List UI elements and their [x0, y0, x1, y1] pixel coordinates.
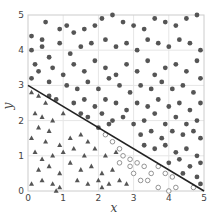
y-tick-label: 4	[18, 45, 24, 55]
y-tick-labels: 012345	[18, 10, 24, 196]
filled-circle-point	[145, 37, 150, 42]
open-circle-point	[170, 175, 175, 180]
triangle-point	[124, 181, 129, 186]
filled-circle-point	[198, 160, 203, 165]
filled-circle-point	[149, 87, 154, 92]
triangle-point	[68, 135, 73, 140]
filled-circle-point	[43, 20, 48, 25]
y-tick-label: 0	[18, 186, 24, 196]
open-circle-point	[138, 178, 143, 183]
filled-circle-point	[173, 115, 178, 120]
triangle-point	[29, 90, 34, 95]
x-axis-label: x	[111, 201, 118, 215]
triangle-point	[33, 111, 38, 116]
filled-circle-point	[82, 69, 87, 74]
filled-circle-point	[145, 104, 150, 109]
triangle-point	[43, 139, 48, 144]
open-circle-point	[156, 185, 161, 190]
filled-circle-point	[85, 115, 90, 120]
filled-circle-point	[163, 65, 168, 70]
triangle-point	[36, 125, 41, 130]
filled-circle-point	[159, 136, 164, 141]
filled-circle-point	[152, 16, 157, 21]
filled-circle-point	[195, 118, 200, 123]
y-tick-label: 5	[18, 10, 24, 20]
filled-circle-point	[29, 48, 34, 53]
filled-circle-point	[40, 44, 45, 49]
triangle-point	[33, 149, 38, 154]
scatter-chart: 012345 012345 x y	[0, 0, 212, 221]
filled-circle-point	[89, 41, 94, 46]
filled-circle-point	[82, 97, 87, 102]
filled-circle-point	[135, 69, 140, 74]
filled-circle-point	[152, 146, 157, 151]
filled-circle-point	[184, 146, 189, 151]
filled-circle-point	[163, 143, 168, 148]
filled-circle-point	[198, 136, 203, 141]
filled-circle-point	[114, 44, 119, 49]
filled-circle-point	[121, 20, 126, 25]
filled-circle-point	[184, 122, 189, 127]
filled-circle-point	[177, 37, 182, 42]
triangle-point	[117, 178, 122, 183]
x-tick-label: 0	[25, 193, 31, 203]
filled-circle-point	[121, 115, 126, 120]
x-tick-label: 5	[201, 193, 207, 203]
triangle-point	[57, 142, 62, 147]
filled-circle-point	[103, 65, 108, 70]
x-tick-label: 2	[96, 193, 102, 203]
filled-circle-point	[191, 129, 196, 134]
triangle-point	[78, 167, 83, 172]
open-circle-point	[110, 139, 115, 144]
filled-circle-point	[61, 72, 66, 77]
open-circle-point	[174, 185, 179, 190]
triangle-point	[99, 185, 104, 190]
filled-circle-point	[36, 69, 41, 74]
filled-circle-point	[75, 87, 80, 92]
open-circle-point	[135, 161, 140, 166]
filled-circle-point	[166, 104, 171, 109]
filled-circle-point	[117, 83, 122, 88]
filled-circle-point	[163, 122, 168, 127]
filled-circle-point	[103, 37, 108, 42]
filled-circle-point	[177, 101, 182, 106]
filled-circle-point	[195, 175, 200, 180]
filled-circle-point	[71, 62, 76, 67]
filled-circle-point	[131, 23, 136, 28]
filled-circle-point	[173, 150, 178, 155]
filled-circle-point	[156, 41, 161, 46]
triangle-point	[36, 167, 41, 172]
open-circle-point	[149, 171, 154, 176]
triangle-point	[106, 181, 111, 186]
filled-circle-point	[110, 13, 115, 18]
filled-circle-point	[170, 129, 175, 134]
open-circle-point	[128, 157, 133, 162]
filled-circle-point	[29, 76, 34, 81]
triangle-point	[68, 160, 73, 165]
triangle-point	[36, 93, 41, 98]
triangle-point	[40, 157, 45, 162]
triangle-point	[89, 164, 94, 169]
filled-circle-point	[33, 62, 38, 67]
filled-circle-point	[142, 118, 147, 123]
filled-circle-point	[195, 13, 200, 18]
filled-circle-point	[198, 101, 203, 106]
filled-circle-point	[114, 72, 119, 77]
triangle-point	[50, 181, 55, 186]
open-circle-point	[128, 164, 133, 169]
open-circle-point	[121, 154, 126, 159]
triangle-point	[110, 167, 115, 172]
filled-circle-point	[166, 160, 171, 165]
filled-circle-point	[71, 101, 76, 106]
filled-circle-point	[68, 51, 73, 56]
filled-circle-point	[170, 87, 175, 92]
filled-circle-point	[100, 111, 105, 116]
filled-circle-point	[198, 48, 203, 53]
filled-circle-point	[107, 76, 112, 81]
filled-circle-point	[152, 111, 157, 116]
filled-circle-point	[64, 23, 69, 28]
y-tick-label: 3	[18, 80, 24, 90]
triangle-point	[57, 171, 62, 176]
filled-circle-point	[64, 83, 69, 88]
triangle-point	[29, 135, 34, 140]
